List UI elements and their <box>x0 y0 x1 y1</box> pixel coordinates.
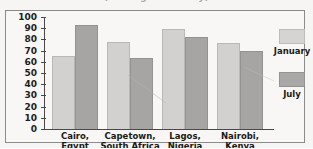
y-tick-40: 40 <box>41 84 46 85</box>
bar-july-cairo <box>75 25 98 129</box>
y-tick-label-50: 50 <box>24 69 37 78</box>
chart-panel: 0 10 20 30 40 50 60 70 8 <box>5 10 305 143</box>
bar-july-nairobi <box>240 51 263 129</box>
bar-july-capetown <box>130 58 153 129</box>
plot-area: 0 10 20 30 40 50 60 70 8 <box>44 17 266 129</box>
bar-january-lagos <box>162 29 185 129</box>
y-tick-80: 80 <box>41 39 46 40</box>
y-tick-20: 20 <box>41 107 46 108</box>
y-tick-label-70: 70 <box>24 46 37 55</box>
bar-chart-figure: (in Pctg. Humidity) 0 10 20 30 40 50 <box>0 0 313 148</box>
category-label-capetown-line2: South Africa <box>96 142 164 149</box>
category-label-nairobi-line2: Kenya <box>212 142 268 149</box>
bar-group-cairo <box>52 17 98 129</box>
category-label-nairobi: Nairobi, Kenya <box>212 132 268 148</box>
y-tick-70: 70 <box>41 51 46 52</box>
y-tick-50: 50 <box>41 73 46 74</box>
legend-label-january: January <box>270 46 313 56</box>
bar-january-nairobi <box>217 43 240 129</box>
y-tick-label-60: 60 <box>24 57 37 66</box>
y-tick-0: 0 <box>41 129 46 130</box>
y-tick-10: 10 <box>41 118 46 119</box>
chart-title: (in Pctg. Humidity) <box>0 0 313 2</box>
y-tick-label-100: 100 <box>18 13 37 22</box>
bar-july-lagos <box>185 37 208 129</box>
y-tick-100: 100 <box>41 17 46 18</box>
y-tick-90: 90 <box>41 28 46 29</box>
legend-entry-january: January <box>270 29 313 56</box>
legend-swatch-january-icon <box>279 29 305 44</box>
bar-group-nairobi <box>217 17 263 129</box>
y-tick-label-30: 30 <box>24 91 37 100</box>
category-label-lagos-line2: Nigeria <box>158 142 212 149</box>
chart-legend: January July <box>270 29 313 99</box>
y-tick-60: 60 <box>41 62 46 63</box>
y-tick-label-20: 20 <box>24 102 37 111</box>
x-axis <box>44 129 274 130</box>
y-tick-label-80: 80 <box>24 35 37 44</box>
legend-swatch-july-icon <box>279 72 305 87</box>
y-tick-30: 30 <box>41 95 46 96</box>
y-tick-label-40: 40 <box>24 80 37 89</box>
category-label-capetown: Capetown, South Africa <box>96 132 164 148</box>
y-tick-label-10: 10 <box>24 113 37 122</box>
legend-label-july: July <box>270 89 313 99</box>
bar-group-lagos <box>162 17 208 129</box>
bar-group-capetown <box>107 17 153 129</box>
category-label-lagos: Lagos, Nigeria <box>158 132 212 148</box>
y-tick-label-90: 90 <box>24 24 37 33</box>
bar-january-cairo <box>52 56 75 129</box>
bar-january-capetown <box>107 42 130 129</box>
legend-entry-july: July <box>270 72 313 99</box>
y-tick-label-0: 0 <box>31 125 37 134</box>
